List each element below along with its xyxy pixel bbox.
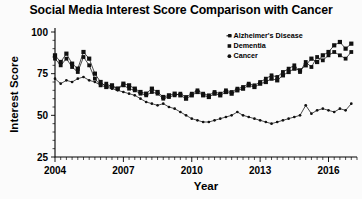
data-point-dementia: [235, 87, 239, 91]
chart-plot: 25507510020042007201020132016Interest Sc…: [0, 0, 362, 199]
data-point-cancer: [65, 79, 68, 82]
data-point-cancer: [105, 86, 108, 89]
data-point-cancer: [327, 109, 330, 112]
legend-item-cancer-label: Cancer: [234, 51, 259, 60]
series-line-dementia: [55, 52, 351, 99]
data-point-alzheimer-s-disease: [309, 57, 313, 61]
data-point-alzheimer-s-disease: [338, 40, 342, 44]
data-point-cancer: [128, 92, 131, 95]
data-point-dementia: [344, 57, 348, 61]
data-point-cancer: [151, 102, 154, 105]
data-point-dementia: [349, 50, 353, 54]
data-point-dementia: [144, 93, 148, 97]
data-point-dementia: [196, 88, 200, 92]
data-point-dementia: [241, 85, 245, 89]
data-point-alzheimer-s-disease: [87, 57, 91, 61]
data-point-cancer: [145, 101, 148, 104]
data-point-cancer: [190, 117, 193, 120]
data-point-cancer: [350, 102, 353, 105]
legend-item-alzheimer-s-disease-label: Alzheimer's Disease: [234, 31, 303, 40]
series-line-alzheimer-s-disease: [55, 42, 351, 99]
data-point-alzheimer-s-disease: [332, 43, 336, 47]
data-point-cancer: [139, 97, 142, 100]
data-point-dementia: [230, 90, 234, 94]
data-point-cancer: [316, 109, 319, 112]
data-point-cancer: [59, 82, 62, 85]
data-point-cancer: [156, 104, 159, 107]
data-point-dementia: [298, 70, 302, 74]
data-point-dementia: [224, 88, 228, 92]
x-axis-label: Year: [194, 180, 219, 192]
data-point-cancer: [94, 81, 97, 84]
data-point-alzheimer-s-disease: [321, 53, 325, 57]
x-tick-label: 2016: [317, 165, 340, 176]
data-point-dementia: [327, 53, 331, 57]
data-point-dementia: [338, 53, 342, 57]
data-point-dementia: [247, 82, 251, 86]
data-point-cancer: [293, 116, 296, 119]
data-point-cancer: [242, 114, 245, 117]
x-tick-label: 2007: [112, 165, 135, 176]
data-point-dementia: [253, 83, 257, 87]
data-point-cancer: [236, 111, 239, 114]
data-point-cancer: [207, 121, 210, 124]
data-point-dementia: [150, 90, 154, 94]
data-point-cancer: [270, 122, 273, 125]
y-tick-label: 75: [37, 68, 49, 79]
data-point-dementia: [53, 57, 57, 61]
data-point-cancer: [82, 76, 85, 79]
data-point-dementia: [133, 88, 137, 92]
data-point-cancer: [116, 89, 119, 92]
data-point-cancer: [339, 107, 342, 110]
data-point-dementia: [190, 92, 194, 96]
data-point-dementia: [161, 97, 165, 101]
data-point-cancer: [213, 119, 216, 122]
data-point-cancer: [259, 119, 262, 122]
data-point-cancer: [287, 117, 290, 120]
x-tick-label: 2004: [44, 165, 67, 176]
data-point-dementia: [321, 58, 325, 62]
data-point-cancer: [173, 107, 176, 110]
data-point-dementia: [178, 92, 182, 96]
data-point-cancer: [54, 77, 57, 80]
data-point-cancer: [299, 114, 302, 117]
y-tick-label: 25: [37, 152, 49, 163]
data-point-dementia: [218, 92, 222, 96]
legend-item-alzheimer-s-disease-marker2: [228, 34, 231, 37]
data-point-cancer: [247, 116, 250, 119]
data-point-dementia: [76, 70, 80, 74]
data-point-dementia: [87, 63, 91, 67]
chart-container: Social Media Interest Score Comparison w…: [0, 0, 362, 199]
data-point-cancer: [253, 117, 256, 120]
data-point-dementia: [287, 67, 291, 71]
y-tick-label: 50: [37, 110, 49, 121]
y-tick-label: 100: [31, 27, 48, 38]
data-point-alzheimer-s-disease: [349, 42, 353, 46]
data-point-cancer: [196, 119, 199, 122]
data-point-cancer: [344, 109, 347, 112]
data-point-dementia: [156, 92, 160, 96]
axis-lines: [55, 28, 357, 157]
legend-item-dementia-marker: [228, 44, 232, 48]
data-point-cancer: [219, 117, 222, 120]
data-point-cancer: [225, 116, 228, 119]
data-point-cancer: [168, 106, 171, 109]
data-point-cancer: [179, 111, 182, 114]
data-point-dementia: [275, 75, 279, 79]
legend-item-cancer-marker: [228, 54, 232, 58]
data-point-dementia: [310, 65, 314, 69]
data-point-cancer: [162, 102, 165, 105]
data-point-dementia: [82, 55, 86, 59]
data-point-cancer: [111, 87, 114, 90]
data-point-cancer: [276, 121, 279, 124]
data-point-cancer: [76, 77, 79, 80]
data-point-dementia: [281, 70, 285, 74]
data-point-cancer: [133, 94, 136, 97]
data-point-dementia: [173, 93, 177, 97]
data-point-alzheimer-s-disease: [315, 60, 319, 64]
y-axis-label: Interest Score: [8, 56, 20, 133]
data-point-cancer: [282, 119, 285, 122]
data-point-dementia: [184, 95, 188, 99]
data-point-dementia: [93, 77, 97, 81]
legend-item-dementia-label: Dementia: [234, 41, 267, 50]
